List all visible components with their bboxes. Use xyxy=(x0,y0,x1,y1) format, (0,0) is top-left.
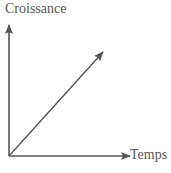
growth-line xyxy=(9,52,103,156)
x-axis-label: Temps xyxy=(130,147,167,163)
